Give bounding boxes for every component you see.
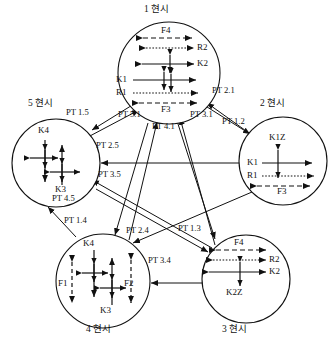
node3-label-k2: K2	[269, 267, 280, 276]
edge-2-to-4	[133, 192, 252, 243]
edge-label-pt-2-4: PT 2.4	[126, 226, 149, 235]
edge-label-pt-1-4: PT 1.4	[64, 216, 87, 225]
node4-label-k3: K3	[100, 306, 111, 315]
node-title-2: 2 현시	[260, 99, 285, 109]
edge-label-pt-4-5: PT 4.5	[52, 194, 75, 203]
node1-label-f3: F3	[161, 105, 171, 114]
edge-label-pt-4-1: PT 4.1	[152, 122, 175, 131]
node2-label-r1: R1	[247, 171, 258, 180]
node1-label-k2: K2	[197, 59, 208, 68]
edge-label-pt-1-3: PT 1.3	[178, 224, 201, 233]
node-title-5: 5 현시	[28, 99, 53, 109]
edge-label-pt-2-5: PT 2.5	[96, 141, 119, 150]
node2-label-k1z: K1Z	[269, 133, 286, 142]
node2-label-k1: K1	[247, 158, 258, 167]
node2-label-f3: F3	[277, 187, 287, 196]
diagram-canvas: 1 현시 2 현시 3 현시 4 현시 5 현시 F4 R2 K2 K1 R1 …	[0, 0, 331, 346]
node3-label-r2: R2	[269, 255, 280, 264]
node-title-3: 3 현시	[222, 325, 247, 335]
node1-label-k1: K1	[116, 75, 127, 84]
edge-label-pt-1-5: PT 1.5	[66, 108, 89, 117]
edge-label-pt-3-5: PT 3.5	[98, 170, 121, 179]
node1-label-f4: F4	[161, 26, 171, 35]
node1-label-r2: R2	[197, 43, 208, 52]
edge-label-pt-3-1: PT 3.1	[190, 110, 213, 119]
node-title-4: 4 현시	[86, 325, 111, 335]
edge-label-pt-1-2: PT 1.2	[222, 117, 245, 126]
node-title-1: 1 현시	[144, 5, 169, 15]
edge-label-pt-2-1: PT 2.1	[212, 86, 235, 95]
node3-label-k2z: K2Z	[226, 288, 243, 297]
edge-label-pt-3-4: PT 3.4	[148, 256, 171, 265]
node4-label-f1: F1	[58, 279, 68, 288]
node4-label-k4: K4	[83, 239, 94, 248]
state-transition-diagram	[0, 0, 331, 346]
node1-label-r1: R1	[116, 88, 127, 97]
node-circle-3	[202, 235, 290, 323]
edge-label-pt-5-1: PT 5.1	[118, 110, 141, 119]
node5-label-k4: K4	[38, 126, 49, 135]
node4-label-f2: F2	[124, 279, 134, 288]
node3-label-f4: F4	[234, 238, 244, 247]
